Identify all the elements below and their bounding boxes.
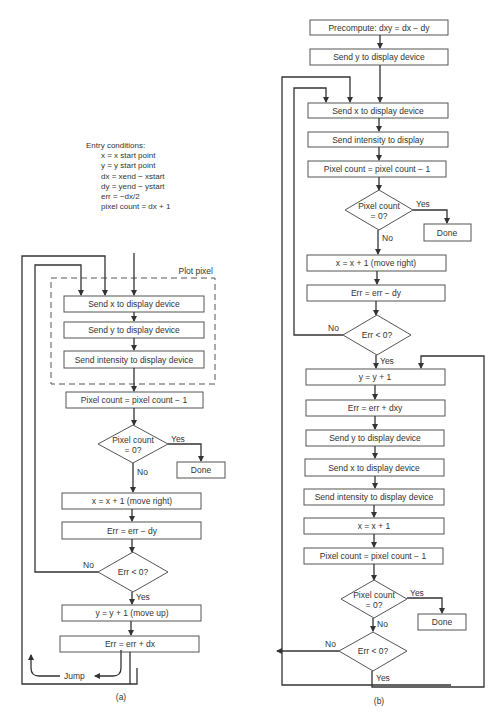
no-label: No xyxy=(377,619,388,629)
err-plus-text: Err = err + dxy xyxy=(348,403,403,413)
pixel-count-dec2-text: Pixel count = pixel count − 1 xyxy=(320,551,427,561)
jump-arrow-left xyxy=(31,655,60,676)
done2-text: Done xyxy=(432,617,453,627)
jump-label: Jump xyxy=(64,671,85,681)
decision-text: Err < 0? xyxy=(118,567,149,577)
move-right-text: x = x + 1 (move right) xyxy=(92,496,172,506)
decision-text: Err < 0? xyxy=(358,646,389,656)
send-intensity2-text: Send intensity to display device xyxy=(315,492,434,502)
decision-text: Pixel count xyxy=(358,201,400,211)
move-right-text: x = x + 1 (move right) xyxy=(336,258,416,268)
pixel-count-dec-text: Pixel count = pixel count − 1 xyxy=(324,164,431,174)
flowchart-canvas: Plot pixel Send x to display device Send… xyxy=(0,0,498,717)
arrow xyxy=(168,444,201,461)
decision-text: Pixel count xyxy=(353,590,395,600)
send-y-text: Send y to display device xyxy=(88,325,180,335)
send-x2-text: Send x to display device xyxy=(328,463,420,473)
send-intensity-text: Send intensity to display xyxy=(332,135,424,145)
yes-label: Yes xyxy=(416,199,430,209)
decision-text: = 0? xyxy=(125,445,142,455)
yes-label: Yes xyxy=(380,356,394,366)
no-label: No xyxy=(83,560,94,570)
decision-text: = 0? xyxy=(371,211,388,221)
plot-pixel-label: Plot pixel xyxy=(179,266,214,276)
arrow xyxy=(413,210,447,223)
err-minus-text: Err = err − dy xyxy=(107,526,158,536)
precompute-text: Precompute: dxy = dx − dy xyxy=(328,23,430,33)
decision-text: Pixel count xyxy=(112,435,154,445)
yes-label: Yes xyxy=(136,592,150,602)
no-label: No xyxy=(328,323,339,333)
send-y-text: Send y to display device xyxy=(333,52,425,62)
flowchart-a: Plot pixel Send x to display device Send… xyxy=(22,253,225,702)
err-plus-text: Err = err + dx xyxy=(105,639,156,649)
no-label: No xyxy=(325,639,336,649)
inc-y-text: y = y + 1 xyxy=(359,372,392,382)
pixel-count-dec-text: Pixel count = pixel count − 1 xyxy=(81,395,188,405)
no-label: No xyxy=(382,233,393,243)
caption-b: (b) xyxy=(374,696,385,706)
err-minus-text: Err = err − dy xyxy=(351,288,402,298)
send-y2-text: Send y to display device xyxy=(329,433,421,443)
done-text: Done xyxy=(437,228,458,238)
jump-arrow-right xyxy=(95,650,121,676)
decision-text: Err < 0? xyxy=(362,330,393,340)
yes-label: Yes xyxy=(171,434,185,444)
arrow xyxy=(407,598,442,613)
decision-text: = 0? xyxy=(366,600,383,610)
done-text: Done xyxy=(191,465,212,475)
send-x-text: Send x to display device xyxy=(332,106,424,116)
flowchart-b: Precompute: dxy = dx − dy Send y to disp… xyxy=(277,20,484,706)
yes-label: Yes xyxy=(410,588,424,598)
yes-label: Yes xyxy=(376,673,390,683)
send-x-text: Send x to display device xyxy=(88,299,180,309)
send-intensity-text: Send intensity to display device xyxy=(75,355,194,365)
no-label: No xyxy=(137,467,148,477)
inc-x-text: x = x + 1 xyxy=(358,521,391,531)
caption-a: (a) xyxy=(116,692,127,702)
move-up-text: y = y + 1 (move up) xyxy=(95,608,168,618)
